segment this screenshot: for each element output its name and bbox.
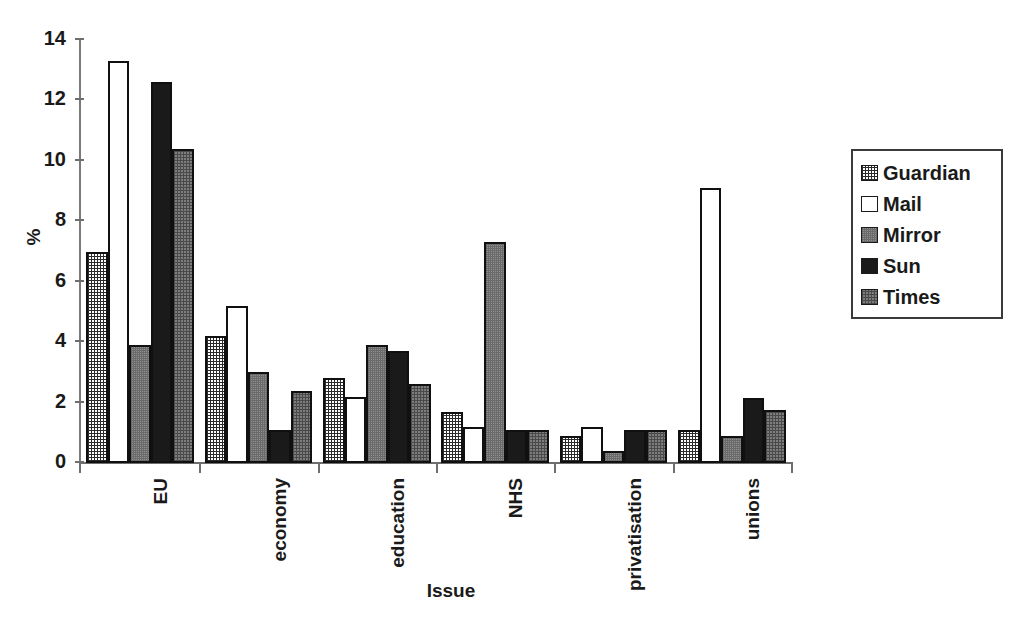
x-tick-mark-origin <box>79 462 81 473</box>
y-tick-label-2: 2 <box>28 391 66 411</box>
bar-times-eu <box>172 149 194 463</box>
swatch-mail-icon <box>861 196 878 212</box>
bar-guardian-nhs <box>441 412 463 463</box>
bar-group-education <box>323 39 431 463</box>
x-tick-mark-nhs <box>554 462 556 473</box>
y-tick-label-10: 10 <box>28 149 66 169</box>
bar-times-privatisation <box>646 430 668 463</box>
bar-mail-unions <box>700 188 722 463</box>
bar-guardian-privatisation <box>560 436 582 463</box>
y-tick-label-8: 8 <box>28 209 66 229</box>
swatch-times-icon <box>861 289 878 305</box>
legend-label-mail: Mail <box>883 194 922 214</box>
legend-label-mirror: Mirror <box>883 225 941 245</box>
bar-group-unions <box>678 39 786 463</box>
y-tick-label-4: 4 <box>28 330 66 350</box>
x-tick-mark-unions <box>791 462 793 473</box>
x-axis-label: Issue <box>381 580 521 602</box>
bar-mirror-nhs <box>484 242 506 463</box>
bar-times-economy <box>291 391 313 464</box>
x-tick-label-privatisation: privatisation <box>624 478 646 628</box>
bar-mirror-eu <box>129 345 151 463</box>
legend-label-times: Times <box>883 287 940 307</box>
x-tick-mark-privatisation <box>673 462 675 473</box>
bar-group-nhs <box>441 39 549 463</box>
plot-area <box>81 39 791 463</box>
y-tick-label-0: 0 <box>28 451 66 471</box>
bar-mail-eu <box>108 61 130 463</box>
swatch-mirror-icon <box>861 227 878 243</box>
legend-item-times: Times <box>861 281 1001 312</box>
bar-sun-economy <box>269 430 291 463</box>
bar-guardian-unions <box>678 430 700 463</box>
x-tick-mark-eu <box>199 462 201 473</box>
y-tick-label-6: 6 <box>28 270 66 290</box>
bar-mail-privatisation <box>581 427 603 463</box>
bar-mirror-privatisation <box>603 451 625 463</box>
bar-group-eu <box>86 39 194 463</box>
legend-item-mirror: Mirror <box>861 219 1001 250</box>
x-tick-mark-education <box>436 462 438 473</box>
bar-mirror-economy <box>248 372 270 463</box>
bar-sun-education <box>388 351 410 463</box>
legend: GuardianMailMirrorSunTimes <box>851 149 1003 319</box>
legend-label-sun: Sun <box>883 256 921 276</box>
legend-label-guardian: Guardian <box>883 163 971 183</box>
bar-sun-unions <box>743 398 765 463</box>
legend-item-sun: Sun <box>861 250 1001 281</box>
x-tick-label-nhs: NHS <box>505 478 527 628</box>
bar-group-economy <box>205 39 313 463</box>
y-tick-label-14: 14 <box>28 28 66 48</box>
x-tick-label-education: education <box>387 478 409 628</box>
x-tick-label-economy: economy <box>269 478 291 628</box>
bar-guardian-economy <box>205 336 227 463</box>
bar-sun-nhs <box>506 430 528 463</box>
swatch-sun-icon <box>861 258 878 274</box>
legend-item-guardian: Guardian <box>861 157 1001 188</box>
bar-mail-nhs <box>463 427 485 463</box>
x-tick-label-eu: EU <box>150 478 172 628</box>
x-tick-mark-economy <box>318 462 320 473</box>
bar-mail-economy <box>226 306 248 463</box>
bar-chart: % 14121086420 EUeconomyeducationNHSpriva… <box>0 0 1015 634</box>
swatch-guardian-icon <box>861 165 878 181</box>
bar-sun-eu <box>151 82 173 463</box>
legend-item-mail: Mail <box>861 188 1001 219</box>
bar-guardian-education <box>323 378 345 463</box>
y-tick-label-12: 12 <box>28 88 66 108</box>
bar-group-privatisation <box>560 39 668 463</box>
bar-sun-privatisation <box>624 430 646 463</box>
bar-mirror-unions <box>721 436 743 463</box>
bar-times-nhs <box>527 430 549 463</box>
bar-guardian-eu <box>86 252 108 464</box>
bar-mail-education <box>345 397 367 463</box>
bar-times-unions <box>764 410 786 463</box>
x-tick-label-unions: unions <box>742 478 764 628</box>
bar-times-education <box>409 384 431 463</box>
bar-mirror-education <box>366 345 388 463</box>
